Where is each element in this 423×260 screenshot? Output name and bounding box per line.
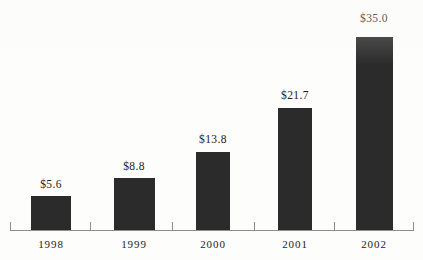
x-axis-tick-0 bbox=[10, 222, 11, 230]
bar-1998 bbox=[31, 196, 71, 230]
x-axis-label-1999: 1999 bbox=[104, 238, 164, 250]
x-axis-label-1998: 1998 bbox=[21, 238, 81, 250]
bar-2000 bbox=[196, 152, 230, 230]
bar-value-2001: $21.7 bbox=[265, 89, 325, 101]
x-axis-line bbox=[10, 230, 414, 231]
x-axis-tick-4 bbox=[334, 222, 335, 230]
x-axis-tick-1 bbox=[90, 222, 91, 230]
x-axis-label-2002: 2002 bbox=[344, 238, 404, 250]
x-axis-tick-2 bbox=[172, 222, 173, 230]
bar-value-2000: $13.8 bbox=[183, 133, 243, 145]
bar-chart: $5.6 $8.8 $13.8 $21.7 $35.0 1998 1999 20… bbox=[0, 0, 423, 260]
x-axis-tick-5 bbox=[413, 222, 414, 230]
bar-value-1999: $8.8 bbox=[104, 160, 164, 172]
x-axis-label-2000: 2000 bbox=[183, 238, 243, 250]
plot-area: $5.6 $8.8 $13.8 $21.7 $35.0 1998 1999 20… bbox=[0, 0, 423, 260]
x-axis-label-2001: 2001 bbox=[265, 238, 325, 250]
bar-value-1998: $5.6 bbox=[21, 178, 81, 190]
bar-2002 bbox=[356, 37, 393, 230]
bar-1999 bbox=[114, 178, 155, 230]
bar-2001 bbox=[278, 108, 312, 230]
bar-value-2002: $35.0 bbox=[344, 12, 404, 24]
x-axis-tick-3 bbox=[254, 222, 255, 230]
